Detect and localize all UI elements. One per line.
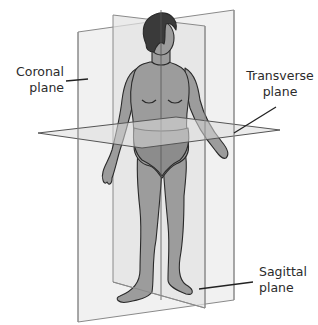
transverse-label-line2: plane [244,84,316,100]
sagittal-label-line1: Sagittal [259,264,318,280]
coronal-label-line1: Coronal [6,64,64,80]
transverse-plane [38,117,280,148]
coronal-plane-label: Coronal plane [6,64,64,96]
coronal-label-line2: plane [6,80,64,96]
sagittal-label-line2: plane [259,280,318,296]
transverse-plane-label: Transverse plane [244,68,316,100]
transverse-label-line1: Transverse [244,68,316,84]
sagittal-plane-label: Sagittal plane [259,264,318,296]
